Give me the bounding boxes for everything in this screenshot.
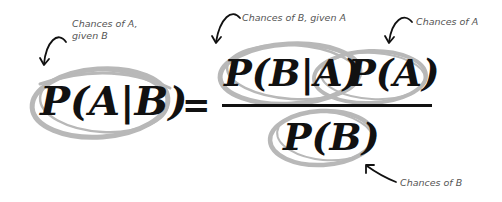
numerator-term2-arrow-icon [385, 18, 412, 43]
numerator-term1-annotation: Chances of B, given A [242, 12, 346, 24]
denominator-arrow-icon [366, 165, 396, 182]
equals-sign: = [182, 88, 211, 122]
lhs-annotation-line1: Chances of A, [72, 18, 137, 30]
numerator-term2: P(A) [348, 55, 440, 92]
denominator: P(B) [283, 118, 380, 156]
lhs-probability: P(A|B) [40, 81, 187, 121]
lhs-arrow-icon [40, 37, 66, 65]
lhs-annotation-line2: given B [72, 30, 137, 42]
numerator-term2-annotation: Chances of A [416, 16, 478, 28]
numerator-term1: P(B|A) [224, 55, 360, 92]
bayes-theorem-diagram: Chances of A, given B Chances of B, give… [0, 0, 502, 202]
fraction-bar [222, 104, 432, 107]
numerator-term1-arrow-icon [212, 14, 240, 43]
lhs-annotation: Chances of A, given B [72, 18, 137, 43]
denominator-annotation: Chances of B [400, 177, 462, 189]
